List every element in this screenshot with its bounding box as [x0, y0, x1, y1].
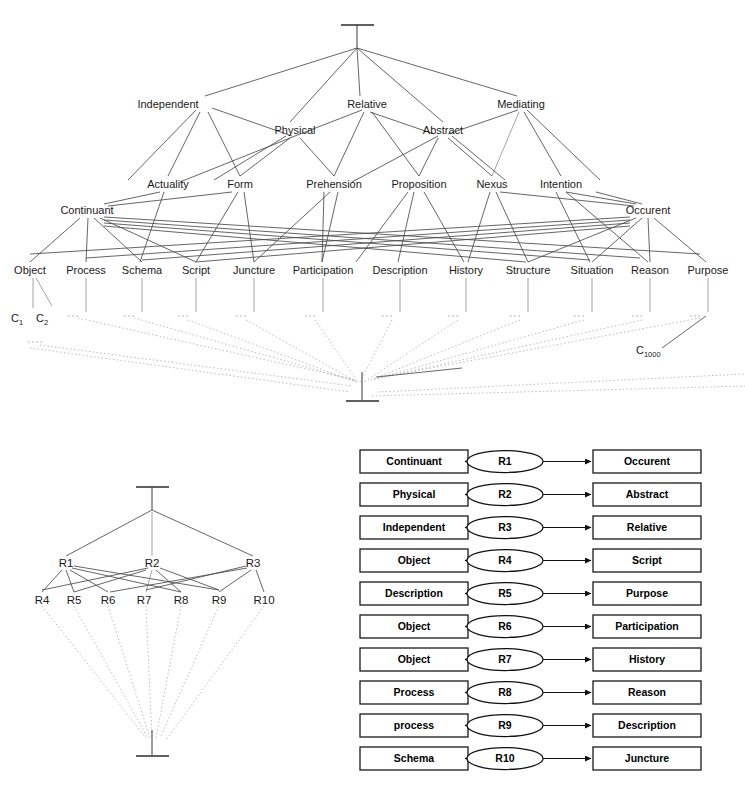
source-label: Continuant — [386, 455, 442, 467]
lower-lattice-edges — [42, 487, 264, 756]
instance-c1000: C1000 — [636, 344, 661, 359]
target-label: Purpose — [626, 587, 668, 599]
leaf-structure: Structure — [506, 264, 551, 276]
leaf-purpose: Purpose — [688, 264, 729, 276]
relation-label: R3 — [498, 521, 512, 533]
leaf-process: Process — [66, 264, 106, 276]
node-form: Form — [227, 178, 253, 190]
upper-lattice-labels: Independent Relative Mediating Physical … — [11, 98, 728, 359]
source-label: Independent — [383, 521, 446, 533]
node-relative: Relative — [347, 98, 387, 110]
node-occurent: Occurent — [626, 204, 671, 216]
relation-label: R6 — [498, 620, 512, 632]
leaf-participation: Participation — [293, 264, 354, 276]
rnode-r10: R10 — [253, 594, 274, 606]
target-label: Occurent — [624, 455, 671, 467]
leaf-schema: Schema — [122, 264, 163, 276]
target-label: Description — [618, 719, 676, 731]
node-intention: Intention — [540, 178, 582, 190]
node-abstract: Abstract — [423, 124, 463, 136]
node-actuality: Actuality — [147, 178, 189, 190]
node-independent: Independent — [137, 98, 198, 110]
target-label: Juncture — [625, 752, 670, 764]
target-label: Relative — [627, 521, 667, 533]
rnode-r3: R3 — [246, 557, 261, 569]
rnode-r9: R9 — [212, 594, 227, 606]
diagram-svg: Independent Relative Mediating Physical … — [0, 0, 745, 805]
relation-row: SchemaR10Juncture — [360, 747, 701, 770]
source-label: Schema — [394, 752, 434, 764]
relation-label: R9 — [498, 719, 512, 731]
source-label: Object — [398, 620, 431, 632]
source-label: Physical — [393, 488, 436, 500]
instance-c1: C1 — [11, 312, 23, 327]
relation-row: ObjectR7History — [360, 648, 701, 671]
instance-c2: C2 — [36, 312, 48, 327]
target-label: Participation — [615, 620, 679, 632]
node-prehension: Prehension — [306, 178, 362, 190]
leaf-history: History — [449, 264, 484, 276]
rnode-r5: R5 — [67, 594, 82, 606]
lower-lattice-labels: R1 R2 R3 R4 R5 R6 R7 R8 R9 R10 — [35, 557, 275, 606]
relation-label: R5 — [498, 587, 512, 599]
relation-label: R2 — [498, 488, 512, 500]
rnode-r8: R8 — [174, 594, 189, 606]
relation-label: R8 — [498, 686, 512, 698]
leaf-reason: Reason — [631, 264, 669, 276]
relation-row: ContinuantR1Occurent — [360, 450, 701, 473]
target-label: History — [629, 653, 665, 665]
relation-row: ObjectR4Script — [360, 549, 701, 572]
relation-label: R7 — [498, 653, 512, 665]
relation-label: R1 — [498, 455, 512, 467]
rnode-r4: R4 — [35, 594, 50, 606]
node-continuant: Continuant — [60, 204, 113, 216]
relation-row: PhysicalR2Abstract — [360, 483, 701, 506]
rnode-r2: R2 — [145, 557, 160, 569]
relation-row: processR9Description — [360, 714, 701, 737]
rnode-r6: R6 — [101, 594, 116, 606]
relation-table: ContinuantR1OccurentPhysicalR2AbstractIn… — [360, 450, 701, 770]
leaf-script: Script — [182, 264, 210, 276]
node-nexus: Nexus — [476, 178, 508, 190]
relation-row: ObjectR6Participation — [360, 615, 701, 638]
node-physical: Physical — [275, 124, 316, 136]
leaf-situation: Situation — [571, 264, 614, 276]
target-label: Reason — [628, 686, 666, 698]
source-label: Description — [385, 587, 443, 599]
relation-row: IndependentR3Relative — [360, 516, 701, 539]
leaf-juncture: Juncture — [233, 264, 275, 276]
target-label: Abstract — [626, 488, 669, 500]
node-proposition: Proposition — [391, 178, 446, 190]
leaf-object: Object — [14, 264, 46, 276]
relation-label: R10 — [495, 752, 514, 764]
source-label: Process — [394, 686, 435, 698]
source-label: process — [394, 719, 434, 731]
leaf-description: Description — [372, 264, 427, 276]
source-label: Object — [398, 554, 431, 566]
relation-label: R4 — [498, 554, 512, 566]
rnode-r7: R7 — [137, 594, 152, 606]
node-mediating: Mediating — [497, 98, 545, 110]
target-label: Script — [632, 554, 662, 566]
relation-row: DescriptionR5Purpose — [360, 582, 701, 605]
figure-canvas: Independent Relative Mediating Physical … — [0, 0, 745, 805]
relation-row: ProcessR8Reason — [360, 681, 701, 704]
rnode-r1: R1 — [59, 557, 74, 569]
source-label: Object — [398, 653, 431, 665]
